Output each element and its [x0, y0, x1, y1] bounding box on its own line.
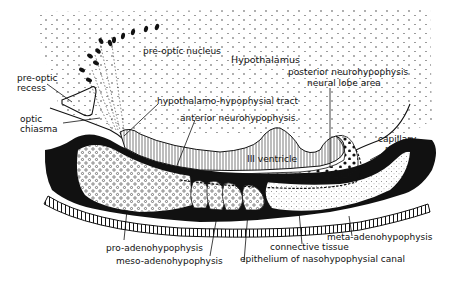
label-posterior-neurohypophysis: posterior neurohypophysis	[288, 67, 408, 77]
label-connective-tissue: connective tissue	[270, 242, 349, 252]
label-third-ventricle: III ventricle	[247, 154, 298, 164]
label-capillary-plexus-1: capillary	[378, 134, 417, 144]
label-hypothalamus: Hypothalamus	[231, 54, 300, 65]
label-epithelium-nasohypophysial-canal: epithelium of nasohypophysial canal	[240, 254, 405, 264]
label-anterior-neurohypophysis: anterior neurohypophysis.	[180, 113, 298, 123]
label-neural-lobe-area: neural lobe area	[307, 78, 381, 88]
label-meso-adenohypophysis: meso-adenohypophysis	[116, 256, 223, 266]
label-pre-optic-recess-2: recess	[17, 83, 46, 93]
label-hypothalamo-hypophysial-tract: hypothalamo-hypophysial tract	[157, 96, 298, 106]
label-pro-adenohypophysis: pro-adenohypophysis	[106, 243, 203, 253]
label-pre-optic-nucleus: pre-optic nucleus	[143, 46, 221, 56]
label-pre-optic-recess-1: pre-optic	[17, 73, 57, 83]
hypothalamo-hypophysial-diagram: pre-optic nucleus Hypothalamus pre-optic…	[0, 0, 449, 281]
label-meta-adenohypophysis: meta-adenohypophysis	[327, 232, 433, 242]
label-optic-chiasma-2: chiasma	[20, 124, 58, 134]
label-capillary-plexus-2: plexus	[385, 144, 415, 154]
label-optic-chiasma-1: optic	[20, 114, 42, 124]
